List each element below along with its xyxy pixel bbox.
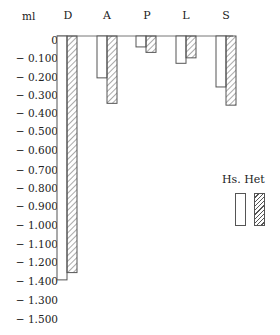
bar-s-het: [226, 36, 236, 105]
bar-a-het: [107, 36, 117, 103]
bar-p-het: [146, 36, 156, 52]
bars: [57, 36, 236, 280]
bar-d-hs: [57, 36, 67, 280]
bar-d-het: [67, 36, 77, 273]
bar-plot-area: [0, 0, 280, 335]
bar-l-hs: [176, 36, 186, 63]
bar-a-hs: [97, 36, 107, 78]
bar-s-hs: [216, 36, 226, 87]
legend-swatch-hs: [235, 193, 246, 226]
bar-l-het: [186, 36, 196, 58]
legend-swatch-het: [254, 193, 265, 226]
legend-title: Hs. Het: [222, 173, 265, 186]
bar-p-hs: [136, 36, 146, 47]
